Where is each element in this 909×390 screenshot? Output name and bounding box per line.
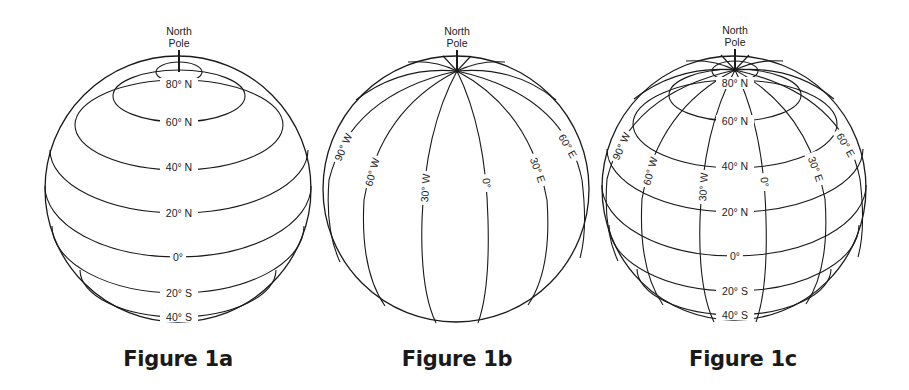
latitude-label-80n: 80° N [166, 78, 192, 90]
latitude-label-20s: 20° S [166, 287, 192, 299]
longitude-label-30e: 30° E [528, 156, 548, 184]
latitude-20n [50, 150, 308, 213]
pole-point [455, 69, 459, 73]
latitude-label-20n: 20° N [722, 206, 748, 218]
meridian-60w [363, 71, 457, 306]
latitude-label-0: 0° [730, 250, 740, 262]
meridian-60e [735, 70, 863, 257]
figure-caption: Figure 1b [402, 347, 513, 371]
longitude-label-30e: 30° E [806, 155, 826, 183]
meridian-back-1 [443, 56, 457, 71]
latitude-label-0: 0° [173, 251, 183, 263]
longitude-label-30w: 30° W [696, 172, 710, 202]
figure-1c: North Pole 80° N 60° N 40° N 20° N 0° 20… [602, 24, 866, 371]
figure-1b: North Pole 90° W 60° W 30° W 0° 30° E 60… [323, 25, 589, 371]
meridian-90w [328, 71, 457, 262]
longitude-label-60e: 60° E [834, 131, 857, 159]
latitude-0 [45, 186, 311, 257]
figure-caption: Figure 1c [689, 347, 797, 371]
globe-figures: North Pole 80° N 60° N 40° N 20° N 0° 20… [0, 0, 909, 390]
meridian-back-2 [457, 56, 471, 71]
figure-caption: Figure 1a [123, 347, 233, 371]
longitude-label-30w: 30° W [418, 173, 432, 203]
latitude-label-40n: 40° N [166, 161, 192, 173]
meridian-60e [457, 71, 585, 258]
globe-outline [323, 56, 589, 322]
globe-outline [45, 56, 311, 322]
longitude-label-60e: 60° E [556, 132, 579, 160]
north-pole-label-line2: Pole [724, 36, 745, 48]
globe-outline [602, 56, 866, 320]
latitude-label-40s: 40° S [166, 311, 192, 323]
latitude-label-60n: 60° N [722, 115, 748, 127]
latitude-label-40n: 40° N [722, 160, 748, 172]
longitude-label-0: 0° [481, 177, 494, 188]
figure-1a: North Pole 80° N 60° N 40° N 20° N 0° 20… [45, 25, 311, 371]
latitude-label-60n: 60° N [166, 116, 192, 128]
meridian-90w [606, 70, 735, 261]
longitude-label-60w: 60° W [640, 155, 659, 186]
latitude-label-20n: 20° N [166, 207, 192, 219]
latitude-label-80n: 80° N [722, 77, 748, 89]
meridian-0 [457, 71, 488, 323]
latitude-label-40s: 40° S [722, 309, 748, 321]
north-pole-label-line2: Pole [446, 37, 467, 49]
north-pole-label-line1: North [166, 25, 192, 37]
meridian-60w [641, 70, 735, 305]
pole-point [733, 68, 737, 72]
longitude-label-90w: 90° W [332, 131, 355, 162]
latitude-label-20s: 20° S [722, 285, 748, 297]
north-pole-label-line2: Pole [168, 37, 189, 49]
longitude-label-0: 0° [759, 176, 772, 187]
north-pole-label-line1: North [722, 24, 748, 36]
north-pole-label-line1: North [444, 25, 470, 37]
longitude-label-60w: 60° W [362, 156, 381, 187]
